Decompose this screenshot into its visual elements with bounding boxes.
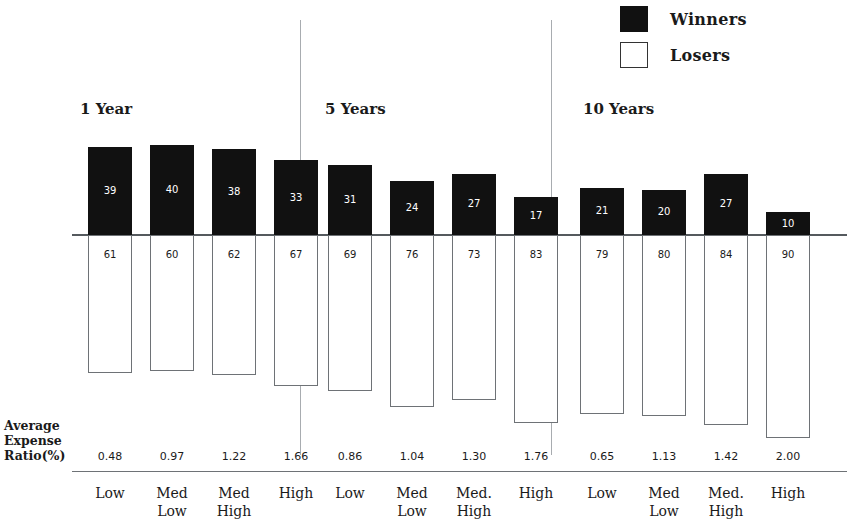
group-title-1: 1 Year (80, 100, 132, 118)
expense-ratio-value: 1.04 (382, 450, 442, 463)
bar-losers (766, 235, 810, 438)
bar-value-winners: 10 (766, 218, 810, 229)
expense-ratio-caption-line-3: Ratio(%) (4, 448, 65, 463)
expense-ratio-value: 1.13 (634, 450, 694, 463)
bar-value-losers: 80 (642, 249, 686, 260)
bar-value-losers: 67 (274, 249, 318, 260)
bar-value-losers: 76 (390, 249, 434, 260)
expense-ratio-value: 1.76 (506, 450, 566, 463)
expense-ratio-value: 0.97 (142, 450, 202, 463)
bar-losers (580, 235, 624, 414)
bar-value-losers: 61 (88, 249, 132, 260)
bar-value-losers: 69 (328, 249, 372, 260)
bar-value-losers: 90 (766, 249, 810, 260)
category-label: High (498, 484, 574, 502)
bar-value-losers: 83 (514, 249, 558, 260)
bar-value-winners: 39 (88, 185, 132, 196)
bar-value-winners: 31 (328, 194, 372, 205)
expense-ratio-value: 1.22 (204, 450, 264, 463)
group-title-2: 5 Years (325, 100, 386, 118)
bar-losers (390, 235, 434, 407)
expense-ratio-value: 0.65 (572, 450, 632, 463)
expense-ratio-value: 0.48 (80, 450, 140, 463)
expense-ratio-caption-line-2: Expense (4, 433, 65, 448)
plot-area: 1 Year39610.48Low40600.97Med Low38621.22… (0, 0, 847, 525)
bar-losers (514, 235, 558, 423)
expense-ratio-value: 1.42 (696, 450, 756, 463)
expense-ratio-caption-line-1: Average (4, 418, 65, 433)
bar-value-winners: 24 (390, 202, 434, 213)
bar-value-winners: 21 (580, 205, 624, 216)
bar-value-winners: 27 (452, 198, 496, 209)
bar-value-losers: 73 (452, 249, 496, 260)
bar-value-winners: 17 (514, 210, 558, 221)
bar-value-winners: 20 (642, 206, 686, 217)
expense-ratio-baseline (72, 471, 847, 472)
bar-value-winners: 40 (150, 184, 194, 195)
group-title-3: 10 Years (583, 100, 654, 118)
expense-ratio-winners-losers-chart: Winners Losers 1 Year39610.48Low40600.97… (0, 0, 847, 525)
expense-ratio-caption: Average Expense Ratio(%) (4, 418, 65, 463)
expense-ratio-value: 1.66 (266, 450, 326, 463)
expense-ratio-value: 2.00 (758, 450, 818, 463)
bar-value-losers: 79 (580, 249, 624, 260)
bar-value-losers: 62 (212, 249, 256, 260)
bar-value-winners: 27 (704, 198, 748, 209)
bar-value-losers: 60 (150, 249, 194, 260)
category-label: High (750, 484, 826, 502)
bar-value-losers: 84 (704, 249, 748, 260)
bar-losers (704, 235, 748, 425)
expense-ratio-value: 0.86 (320, 450, 380, 463)
bar-value-winners: 38 (212, 186, 256, 197)
bar-value-winners: 33 (274, 192, 318, 203)
bar-losers (642, 235, 686, 416)
expense-ratio-value: 1.30 (444, 450, 504, 463)
